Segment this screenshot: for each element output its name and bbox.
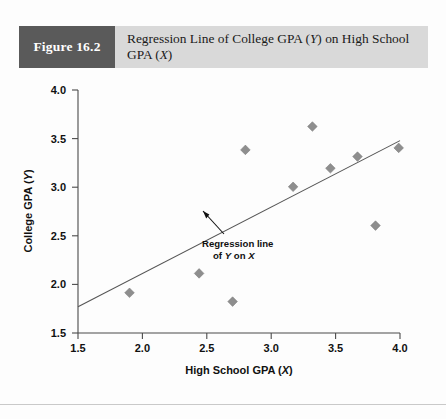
- x-ticklabel-2.0: 2.0: [135, 342, 150, 354]
- bottom-divider: [0, 404, 446, 405]
- data-point: [194, 269, 204, 279]
- annotation-line2: of Y on X: [213, 250, 255, 261]
- data-points: [125, 122, 404, 307]
- data-point: [353, 152, 363, 162]
- data-point: [241, 145, 251, 155]
- data-point: [125, 288, 135, 298]
- data-point: [308, 122, 318, 132]
- x-ticklabel-3.5: 3.5: [328, 342, 343, 354]
- figure-container: Figure 16.2 Regression Line of College G…: [0, 0, 446, 419]
- figure-title-line1: Regression Line of College GPA (Y) on Hi…: [127, 31, 409, 46]
- data-point: [371, 221, 381, 231]
- data-point: [228, 297, 238, 307]
- x-ticklabel-2.5: 2.5: [199, 342, 214, 354]
- y-ticklabel-4.0: 4.0: [51, 84, 66, 96]
- regression-line: [78, 141, 400, 307]
- y-ticklabel-3.5: 3.5: [51, 133, 66, 145]
- y-axis-ticks: 4.0 3.5 3.0 2.5 2.0 1.5: [51, 84, 78, 339]
- data-point: [394, 143, 404, 153]
- x-ticklabel-1.5: 1.5: [70, 342, 85, 354]
- figure-header: Figure 16.2 Regression Line of College G…: [19, 26, 428, 68]
- figure-title: Regression Line of College GPA (Y) on Hi…: [115, 26, 428, 68]
- plot-svg: 4.0 3.5 3.0 2.5 2.0 1.5 1.5 2.0 2.5 3.0 …: [0, 68, 446, 388]
- annotation-line1: Regression line: [202, 238, 273, 249]
- y-ticklabel-1.5: 1.5: [51, 327, 66, 339]
- data-point: [288, 182, 298, 192]
- x-ticklabel-4.0: 4.0: [392, 342, 407, 354]
- figure-title-line2: GPA (X): [127, 47, 172, 62]
- y-ticklabel-2.5: 2.5: [51, 230, 66, 242]
- x-ticklabel-3.0: 3.0: [264, 342, 279, 354]
- figure-number-label: Figure 16.2: [33, 39, 100, 55]
- data-point: [326, 163, 336, 173]
- y-ticklabel-3.0: 3.0: [51, 181, 66, 193]
- y-axis-label: College GPA (Y): [22, 169, 34, 252]
- annotation-arrow: [203, 211, 224, 234]
- y-ticklabel-2.0: 2.0: [51, 278, 66, 290]
- x-axis-ticks: 1.5 2.0 2.5 3.0 3.5 4.0: [70, 333, 407, 354]
- scatter-plot: 4.0 3.5 3.0 2.5 2.0 1.5 1.5 2.0 2.5 3.0 …: [0, 68, 446, 388]
- x-axis-label: High School GPA (X): [185, 364, 293, 376]
- figure-number-tag: Figure 16.2: [19, 26, 115, 68]
